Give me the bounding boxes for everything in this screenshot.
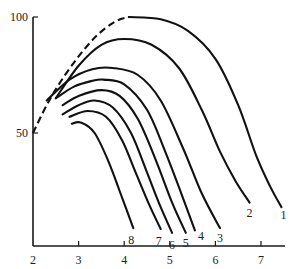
curve-label-3: 3 [217,231,223,245]
envelope-curve [33,17,129,133]
x-tick-label: 7 [258,253,264,267]
curve-label-4: 4 [198,229,204,243]
x-tick-label: 2 [30,253,36,267]
x-tick-label: 3 [76,253,82,267]
curve-label-5: 5 [183,236,189,250]
curve-8 [72,122,134,228]
x-tick-label: 4 [121,253,127,267]
curve-label-6: 6 [169,238,175,252]
curve-label-7: 7 [156,234,162,248]
x-tick-label: 5 [167,253,173,267]
y-tick-label: 50 [16,126,28,140]
curve-label-8: 8 [128,233,134,247]
curve-label-1: 1 [281,208,287,222]
curve-6 [63,100,173,232]
chart: 23456750100 12345678 [0,0,294,269]
x-tick-label: 6 [212,253,218,267]
ticks: 23456750100 [10,10,264,267]
curve-label-2: 2 [247,206,253,220]
y-tick-label: 100 [10,10,28,24]
curves [33,17,282,233]
